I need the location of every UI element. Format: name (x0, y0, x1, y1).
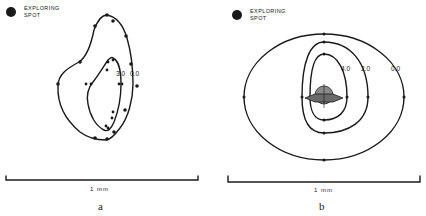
figure-canvas: 3.0 0.0 4.0 2.0 0.0 (0, 0, 426, 216)
panel-b-label-4: 4.0 (341, 65, 350, 72)
panel-a-label-3: 3.0 (116, 70, 125, 77)
panel-b-contour-2 (302, 42, 368, 133)
panel-b-label-2: 2.0 (361, 65, 370, 72)
scale-bar-a (6, 176, 198, 180)
panel-a-caption: a (98, 200, 103, 212)
panel-a-contour-inner (87, 58, 121, 131)
panel-b-label-0: 0.0 (391, 65, 400, 72)
panel-a-contour-outer (58, 15, 133, 140)
scale-bar-b-label: 1 mm (314, 187, 333, 193)
scale-bar-a-label: 1 mm (90, 186, 109, 192)
scale-bar-b (228, 176, 420, 182)
panel-a-label-0: 0.0 (130, 70, 139, 77)
panel-b-caption: b (319, 200, 325, 212)
